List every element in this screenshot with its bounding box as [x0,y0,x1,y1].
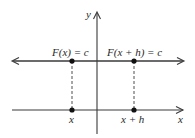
label-x-plus-h: x + h [120,113,145,125]
x-axis-label: x [177,113,183,125]
point-F-x-plus-h [131,58,136,63]
point-x [69,107,74,112]
label-F-x-plus-h-equals-c: F(x + h) = c [106,46,162,59]
y-axis [94,12,101,134]
label-x: x [68,113,74,125]
y-axis-label: y [85,8,91,20]
horizontal-line-c [12,58,184,65]
point-x-plus-h [131,107,136,112]
point-F-x [69,58,74,63]
label-F-x-equals-c: F(x) = c [51,46,89,59]
diagram-canvas: y x F(x) = c F(x + h) = c x x + h [0,0,195,138]
